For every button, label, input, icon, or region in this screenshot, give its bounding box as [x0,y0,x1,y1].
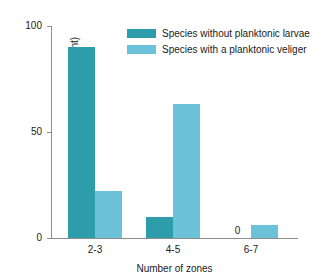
y-tick-label-100: 100 [25,19,42,32]
plot-area: 100 50 0 Species (per cent) 0 2-3 4-5 6-… [51,20,301,242]
bar-dark-2-3 [68,47,95,238]
bar-light-4-5 [173,104,200,238]
x-tick-label-4-5: 4-5 [146,244,200,255]
x-tick-label-6-7: 6-7 [224,244,278,255]
y-tick-label-0: 0 [36,231,42,244]
y-tick-label-50: 50 [31,125,42,138]
x-axis-title: Number of zones [51,263,298,274]
bar-light-2-3 [95,191,122,238]
bars-layer: 0 [51,20,301,239]
bar-dark-4-5 [146,217,173,238]
bar-light-6-7 [251,225,278,238]
bar-value-label-dark-6-7: 0 [224,225,251,236]
x-tick-label-2-3: 2-3 [68,244,122,255]
bar-chart: Species without planktonic larvae Specie… [0,0,313,275]
